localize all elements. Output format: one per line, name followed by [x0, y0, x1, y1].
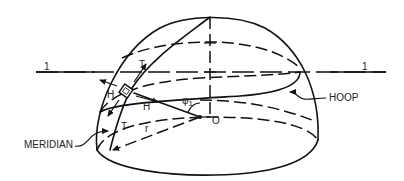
axis-label-right: 1: [362, 61, 368, 72]
label-meridian: MERIDIAN: [24, 139, 73, 150]
label-radius: r: [145, 123, 149, 134]
label-t-bottom: T: [121, 121, 127, 132]
label-angle: φ1: [182, 95, 193, 108]
label-center-o: O: [212, 115, 220, 126]
axis-label-left: 1: [44, 61, 50, 72]
upper-latitude: [122, 42, 300, 68]
label-hoop: HOOP: [329, 92, 359, 103]
center-point: [198, 115, 202, 119]
label-t-top: T: [139, 59, 145, 70]
label-h-right: H: [143, 101, 150, 112]
label-h-left: H: [107, 89, 114, 100]
hoop-leader: [290, 92, 326, 99]
meridian-leader: [75, 131, 108, 146]
base-rim-front: [97, 140, 318, 175]
dome-diagram: 1 1 T H H T φ1 r O MERIDIAN HOOP: [0, 0, 404, 181]
base-rim-back: [97, 117, 318, 150]
dome-outline: [96, 17, 318, 150]
